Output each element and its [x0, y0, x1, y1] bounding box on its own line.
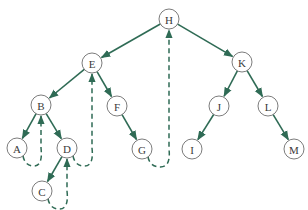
edge-b-a	[22, 114, 36, 139]
edge-h-e	[102, 24, 161, 58]
node-a: A	[7, 138, 27, 158]
edge-b-d	[46, 114, 61, 139]
edge-d-c	[48, 157, 62, 182]
node-label: H	[165, 14, 173, 26]
node-m: M	[284, 139, 304, 159]
node-label: I	[190, 144, 194, 156]
node-f: F	[107, 96, 127, 116]
node-label: M	[289, 144, 299, 156]
edge-j-i	[198, 114, 214, 139]
node-b: B	[31, 95, 51, 115]
node-label: A	[13, 143, 21, 155]
node-label: L	[265, 101, 272, 113]
node-label: G	[138, 144, 146, 156]
node-l: L	[258, 96, 278, 116]
nodes-layer: HEKBFJLADGIMC	[7, 9, 304, 201]
node-label: B	[37, 100, 44, 112]
node-c: C	[32, 181, 52, 201]
node-label: F	[114, 101, 120, 113]
edge-f-g	[122, 115, 136, 140]
edges-layer	[22, 24, 288, 182]
node-h: H	[159, 9, 179, 29]
node-label: K	[238, 57, 246, 69]
edge-k-j	[224, 71, 237, 96]
tree-canvas: HEKBFJLADGIMC	[0, 0, 308, 210]
node-label: C	[38, 186, 45, 198]
node-d: D	[57, 138, 77, 158]
node-label: J	[217, 101, 222, 113]
thread-c-d	[48, 159, 67, 209]
edge-k-l	[247, 71, 262, 97]
node-label: D	[63, 143, 71, 155]
edge-e-b	[49, 69, 84, 98]
node-e: E	[82, 53, 102, 73]
node-g: G	[132, 139, 152, 159]
edge-l-m	[273, 115, 288, 140]
threaded-tree-diagram: HEKBFJLADGIMC	[0, 0, 308, 210]
edge-h-k	[178, 24, 233, 56]
node-label: E	[89, 58, 96, 70]
node-j: J	[209, 96, 229, 116]
node-k: K	[232, 52, 252, 72]
node-i: I	[182, 139, 202, 159]
edge-e-f	[97, 72, 111, 97]
thread-a-b	[23, 116, 41, 166]
